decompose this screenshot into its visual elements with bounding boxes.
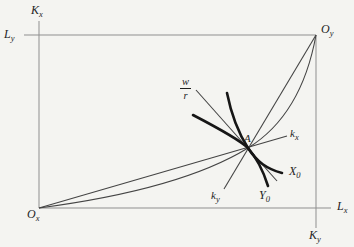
edgeworth-box-figure: Kx Ly Oy Ox Lx Ky w r A kx ky X0 Y0 — [0, 0, 354, 247]
label-origin-y: Oy — [321, 23, 333, 39]
isoquant-y-curve — [193, 115, 268, 186]
label-point-a: A — [244, 132, 251, 144]
label-labor-x-axis: Lx — [337, 200, 347, 216]
label-capital-y-axis: Ky — [309, 229, 321, 245]
diagram-canvas — [0, 0, 354, 247]
label-isoquant-y: Y0 — [259, 189, 270, 205]
label-ky-ray: ky — [211, 189, 220, 205]
label-isoquant-x: X0 — [289, 165, 301, 181]
contract-curve — [39, 35, 316, 208]
label-labor-y-axis: Ly — [4, 28, 14, 44]
label-capital-x-axis: Kx — [31, 4, 43, 20]
ky-ray — [224, 35, 316, 189]
label-origin-x: Ox — [27, 208, 39, 224]
label-wage-rental-ratio: w r — [180, 76, 191, 101]
label-kx-ray: kx — [290, 127, 299, 143]
